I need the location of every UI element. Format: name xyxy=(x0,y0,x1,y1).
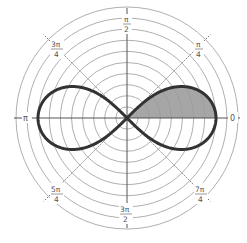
svg-text:0: 0 xyxy=(230,114,235,123)
label-3pi-over-2: 3π 2 xyxy=(119,203,133,224)
svg-text:5π: 5π xyxy=(51,185,61,194)
svg-text:π: π xyxy=(124,15,129,24)
label-7pi-over-4: 7π 4 xyxy=(194,183,208,204)
svg-text:4: 4 xyxy=(54,195,59,204)
label-3pi-over-4: 3π 4 xyxy=(50,38,64,59)
svg-text:π: π xyxy=(196,40,201,49)
svg-text:4: 4 xyxy=(54,50,59,59)
label-pi: π xyxy=(22,112,32,123)
polar-lemniscate-diagram: 0 π π 2 3π 2 π 4 3π 4 5π 4 7π 4 xyxy=(0,0,247,243)
svg-text:3π: 3π xyxy=(51,40,61,49)
svg-text:3π: 3π xyxy=(120,205,130,214)
label-0: 0 xyxy=(228,112,238,123)
svg-text:7π: 7π xyxy=(195,185,205,194)
svg-text:π: π xyxy=(23,114,28,123)
svg-text:2: 2 xyxy=(124,25,129,34)
label-5pi-over-4: 5π 4 xyxy=(50,183,64,204)
svg-text:4: 4 xyxy=(196,50,201,59)
label-pi-over-4: π 4 xyxy=(194,39,204,59)
label-pi-over-2: π 2 xyxy=(122,14,132,34)
svg-text:2: 2 xyxy=(123,215,128,224)
svg-text:4: 4 xyxy=(198,195,203,204)
